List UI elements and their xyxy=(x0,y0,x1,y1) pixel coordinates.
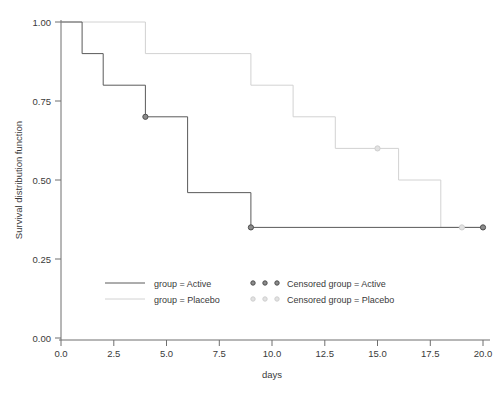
legend-label-placebo: group = Placebo xyxy=(154,295,220,305)
x-tick-label: 0.0 xyxy=(54,348,67,359)
x-axis-title: days xyxy=(262,369,282,380)
series-line-active xyxy=(61,22,483,227)
legend-label-censored-placebo: Censored group = Placebo xyxy=(287,295,394,305)
legend-label-censored-active: Censored group = Active xyxy=(287,279,386,289)
censored-marker-placebo xyxy=(459,225,464,230)
x-tick-label: 2.5 xyxy=(107,348,120,359)
x-ticks-group: 0.0 2.5 5.0 7.5 10.0 12.5 15.0 17.5 20.0 xyxy=(54,340,492,359)
x-tick-label: 20.0 xyxy=(474,348,493,359)
x-tick-label: 15.0 xyxy=(368,348,387,359)
y-tick-label: 0.00 xyxy=(33,333,52,344)
chart-canvas: 1.00 0.75 0.50 0.25 0.00 0.0 2.5 5.0 7.5… xyxy=(0,0,503,396)
y-tick-label: 0.50 xyxy=(33,175,52,186)
series-line-placebo xyxy=(61,22,483,227)
x-tick-label: 7.5 xyxy=(213,348,226,359)
censored-markers-group xyxy=(143,114,486,230)
y-axis-title: Survival distribution function xyxy=(13,121,24,239)
censored-marker-active xyxy=(143,114,148,119)
legend-swatch-markers-placebo xyxy=(251,297,279,301)
survival-plot-figure: 1.00 0.75 0.50 0.25 0.00 0.0 2.5 5.0 7.5… xyxy=(0,0,503,396)
censored-marker-active xyxy=(248,225,253,230)
y-ticks-group: 1.00 0.75 0.50 0.25 0.00 xyxy=(33,17,62,344)
x-tick-label: 17.5 xyxy=(421,348,440,359)
x-tick-label: 5.0 xyxy=(160,348,173,359)
x-tick-label: 12.5 xyxy=(316,348,335,359)
legend-label-active: group = Active xyxy=(154,279,211,289)
y-tick-label: 0.25 xyxy=(33,254,52,265)
y-tick-label: 0.75 xyxy=(33,96,52,107)
censored-marker-active xyxy=(480,225,485,230)
censored-marker-placebo xyxy=(375,146,380,151)
y-tick-label: 1.00 xyxy=(33,17,52,28)
legend-swatch-markers-active xyxy=(251,281,279,285)
legend: group = Active group = Placebo Censored … xyxy=(105,279,394,305)
x-tick-label: 10.0 xyxy=(263,348,282,359)
